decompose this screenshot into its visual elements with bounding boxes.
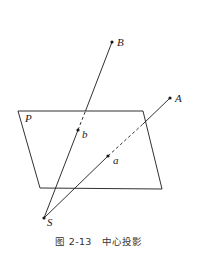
central-projection-diagram: B A P b a S (0, 0, 198, 265)
ray-to-point-a (143, 98, 170, 124)
point-a-dot (168, 96, 171, 99)
point-b-dot (110, 40, 113, 43)
label-s: S (47, 216, 53, 228)
projection-b-dot (76, 128, 79, 131)
label-plane-p: P (24, 112, 32, 124)
caption-number: 图 2-13 (55, 236, 91, 247)
label-b-upper: B (117, 36, 124, 48)
caption-title: 中心投影 (102, 236, 143, 247)
ray-s-to-b-solid (44, 130, 78, 218)
figure-caption: 图 2-13 中心投影 (0, 234, 198, 248)
label-a-lower: a (113, 154, 119, 166)
ray-a-hidden-segment (108, 124, 143, 156)
ray-s-to-a-solid (44, 156, 108, 218)
ray-to-point-b (86, 42, 113, 111)
projection-plane-p (18, 111, 162, 189)
projection-a-dot (106, 154, 109, 157)
label-b-lower: b (82, 128, 88, 140)
label-a-upper: A (174, 92, 182, 104)
center-s-dot (42, 216, 45, 219)
